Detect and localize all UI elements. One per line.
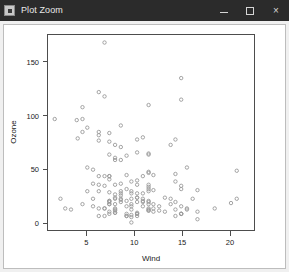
x-tick-label: 10 <box>130 238 138 247</box>
y-tick-label: 50 <box>31 165 39 174</box>
y-tick-label: 100 <box>26 112 39 121</box>
data-point <box>97 183 100 186</box>
close-button[interactable]: × <box>263 0 289 21</box>
data-point <box>108 131 111 134</box>
data-point <box>119 182 122 185</box>
data-point <box>152 188 155 191</box>
data-point <box>157 209 160 212</box>
scatter-plot: 5101520 050100150 Wind Ozone <box>4 25 285 268</box>
data-point <box>81 117 84 120</box>
data-point <box>103 214 106 217</box>
data-point <box>169 202 172 205</box>
data-point <box>147 183 150 186</box>
plot-frame <box>48 35 255 231</box>
data-point <box>147 103 150 106</box>
data-point <box>135 183 138 186</box>
data-point <box>191 197 194 200</box>
window-titlebar[interactable]: Plot Zoom × <box>0 0 289 21</box>
data-point <box>108 140 111 143</box>
data-point <box>119 145 122 148</box>
data-point <box>119 124 122 127</box>
data-point <box>97 139 100 142</box>
x-tick-label: 15 <box>178 238 186 247</box>
data-point <box>157 205 160 208</box>
maximize-icon <box>237 0 263 21</box>
data-point <box>174 138 177 141</box>
window-title: Plot Zoom <box>21 0 211 21</box>
data-point <box>108 153 111 156</box>
data-point <box>59 197 62 200</box>
data-point <box>174 214 177 217</box>
data-point <box>97 90 100 93</box>
x-tick-label: 5 <box>84 238 88 247</box>
data-point <box>91 168 94 171</box>
data-point <box>130 221 133 224</box>
plot-canvas: 5101520 050100150 Wind Ozone <box>3 24 286 269</box>
data-point <box>196 210 199 213</box>
data-point <box>81 105 84 108</box>
minimize-button[interactable] <box>211 0 237 21</box>
data-point <box>135 196 138 199</box>
data-point <box>141 136 144 139</box>
data-point <box>174 172 177 175</box>
y-axis-title: Ozone <box>9 120 18 144</box>
data-point <box>91 197 94 200</box>
data-point <box>86 126 89 129</box>
data-point <box>135 200 138 203</box>
data-point <box>196 188 199 191</box>
minimize-icon <box>211 0 237 21</box>
data-point <box>91 182 94 185</box>
data-point <box>174 200 177 203</box>
data-point <box>130 215 133 218</box>
y-tick-label: 0 <box>35 219 39 228</box>
data-point <box>163 210 166 213</box>
data-point <box>103 95 106 98</box>
data-point <box>147 190 150 193</box>
data-point <box>179 98 182 101</box>
data-point <box>229 201 232 204</box>
maximize-button[interactable] <box>237 0 263 21</box>
y-axis-ticks: 050100150 <box>26 58 47 229</box>
data-point <box>152 173 155 176</box>
data-point <box>125 214 128 217</box>
data-point <box>235 169 238 172</box>
data-point <box>179 212 182 215</box>
data-point <box>81 130 84 133</box>
data-point <box>135 151 138 154</box>
data-point <box>179 76 182 79</box>
data-point <box>81 202 84 205</box>
data-point <box>125 187 128 190</box>
data-point <box>119 158 122 161</box>
x-tick-label: 20 <box>226 238 234 247</box>
x-axis-title: Wind <box>142 254 160 263</box>
data-point <box>103 184 106 187</box>
data-point <box>174 180 177 183</box>
data-point <box>235 197 238 200</box>
app-icon <box>4 5 15 16</box>
data-point <box>125 154 128 157</box>
data-point <box>69 208 72 211</box>
data-point <box>113 202 116 205</box>
data-point <box>75 118 78 121</box>
data-point <box>174 208 177 211</box>
data-point <box>91 205 94 208</box>
data-point <box>169 197 172 200</box>
data-point <box>152 202 155 205</box>
data-point <box>97 214 100 217</box>
data-point <box>196 218 199 221</box>
scatter-points <box>53 41 238 224</box>
data-point <box>179 205 182 208</box>
data-point <box>125 173 128 176</box>
data-point <box>97 207 100 210</box>
data-point <box>185 166 188 169</box>
plot-zoom-window: Plot Zoom × 5101520 050100150 Wind Ozone <box>0 0 289 272</box>
data-point <box>108 191 111 194</box>
data-point <box>125 205 128 208</box>
data-point <box>103 174 106 177</box>
data-point <box>113 143 116 146</box>
data-point <box>53 117 56 120</box>
data-point <box>113 183 116 186</box>
data-point <box>103 41 106 44</box>
data-point <box>141 192 144 195</box>
data-point <box>86 190 89 193</box>
